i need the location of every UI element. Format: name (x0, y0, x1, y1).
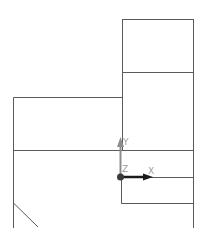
y-axis-label: Y (122, 137, 129, 147)
cad-viewport[interactable]: Y X Z (0, 0, 209, 238)
z-axis-label: Z (122, 164, 128, 174)
drawing-canvas[interactable]: Y X Z (0, 0, 209, 238)
z-axis-origin-icon (117, 174, 124, 181)
x-axis-label: X (148, 166, 154, 176)
drawing-geometry (14, 20, 194, 229)
diagonal-line (14, 203, 39, 227)
ucs-axes-indicator: Y X Z (117, 137, 154, 181)
top-rectangle (123, 20, 194, 73)
